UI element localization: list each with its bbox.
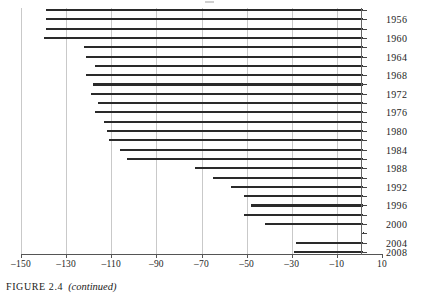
figure-caption-label: FIGURE 2.4 [6, 281, 63, 292]
y-axis-tick [362, 168, 367, 169]
y-axis-tick [362, 84, 367, 85]
chart-bar [86, 56, 362, 58]
x-axis-tick-label: –70 [194, 259, 209, 269]
y-axis-tick [362, 112, 367, 113]
y-axis-tick [362, 47, 367, 48]
chart-bar [120, 149, 363, 151]
chart-bar [84, 46, 363, 48]
chart-bar [251, 204, 363, 206]
y-axis-tick [362, 131, 367, 132]
chart-bar [244, 195, 362, 197]
chart-bar [265, 223, 363, 225]
y-axis-tick [362, 38, 367, 39]
chart-bar [213, 177, 363, 179]
chart-plot-area: –150–130–110–90–70–50–30–1010 [0, 0, 425, 262]
y-axis-year-label: 1956 [386, 14, 407, 25]
chart-bar [86, 74, 362, 76]
chart-bar [195, 167, 363, 169]
y-axis-year-label: 1976 [386, 107, 407, 118]
y-axis-tick [362, 224, 367, 225]
y-axis-year-label: 1984 [386, 144, 407, 155]
y-axis-tick [362, 94, 367, 95]
y-axis-line [361, 8, 362, 255]
y-axis-year-label: 1992 [386, 181, 407, 192]
chart-bar [109, 139, 363, 141]
x-gridline [21, 8, 22, 254]
y-axis-year-labels: 1956196019641968197219761980198419881992… [386, 0, 425, 262]
figure-container: –150–130–110–90–70–50–30–1010 1956196019… [0, 0, 425, 303]
y-axis-tick [362, 75, 367, 76]
x-axis-tick-label: –130 [56, 259, 76, 269]
chart-bar [231, 186, 363, 188]
y-axis-tick [362, 140, 367, 141]
y-axis-year-label: 1960 [386, 32, 407, 43]
x-axis-tick-label: –90 [149, 259, 164, 269]
chart-bar [95, 65, 362, 67]
y-axis-tick [362, 103, 367, 104]
chart-bar [98, 102, 363, 104]
chart-bar [95, 111, 362, 113]
x-axis-tick-label: –150 [11, 259, 31, 269]
chart-bar [93, 83, 363, 85]
x-gridline [66, 8, 67, 254]
y-axis-tick [362, 159, 367, 160]
y-axis-tick [362, 19, 367, 20]
y-axis-tick [362, 252, 367, 253]
y-axis-tick [362, 57, 367, 58]
y-axis-year-label: 1964 [386, 51, 407, 62]
y-axis-year-label: 1972 [386, 88, 407, 99]
y-axis-tick [362, 215, 367, 216]
y-axis-year-label: 1980 [386, 126, 407, 137]
chart-bar [44, 37, 363, 39]
chart-bar [294, 251, 363, 253]
y-axis-tick [362, 29, 367, 30]
y-axis-tick [362, 243, 367, 244]
chart-bar [244, 214, 362, 216]
x-axis-tick-label: –30 [284, 259, 299, 269]
x-axis-tick-label: –50 [239, 259, 254, 269]
y-axis-tick [362, 187, 367, 188]
chart-bar [127, 158, 363, 160]
y-axis-tick [362, 196, 367, 197]
chart-bar [296, 242, 363, 244]
x-axis-line [21, 254, 382, 255]
chart-bar [91, 93, 363, 95]
y-axis-year-label: 2008 [386, 247, 407, 258]
y-axis-tick [362, 205, 367, 206]
y-axis-tick [362, 150, 367, 151]
figure-caption-note: (continued) [68, 281, 116, 292]
y-axis-tick [362, 233, 367, 234]
y-axis-year-label: 1988 [386, 163, 407, 174]
y-axis-tick [362, 178, 367, 179]
y-axis-tick [362, 66, 367, 67]
y-axis-year-label: 2000 [386, 219, 407, 230]
x-axis-tick-label: –110 [102, 259, 121, 269]
chart-bar [104, 121, 362, 123]
x-axis-tick-label: –10 [329, 259, 344, 269]
y-axis-tick [362, 122, 367, 123]
chart-bar [46, 28, 363, 30]
x-axis-tick [382, 254, 383, 258]
y-axis-tick [362, 10, 367, 11]
y-axis-year-label: 1996 [386, 200, 407, 211]
y-axis-year-label: 1968 [386, 70, 407, 81]
chart-bar [46, 18, 363, 20]
chart-bar [107, 130, 363, 132]
chart-bar [46, 9, 363, 11]
figure-caption: FIGURE 2.4(continued) [6, 281, 117, 292]
